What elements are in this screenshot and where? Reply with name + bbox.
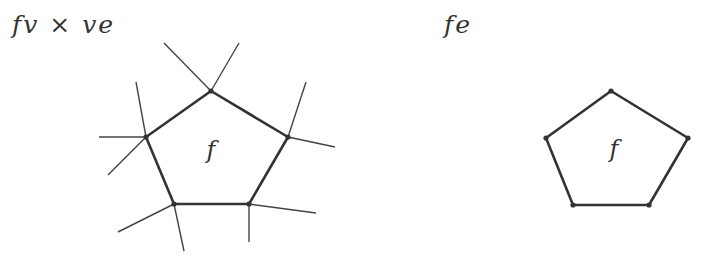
diagram-canvas: f f — [0, 0, 703, 256]
incident-edge — [174, 204, 184, 251]
left-pentagon-face — [146, 91, 288, 204]
incident-edge — [288, 82, 306, 137]
left-face-label: f — [205, 136, 220, 164]
incident-edge — [249, 204, 316, 213]
right-face-label: f — [608, 135, 623, 163]
incident-edge — [108, 137, 146, 175]
vertex-dot — [646, 202, 651, 207]
vertex-dot — [570, 202, 575, 207]
incident-edge — [288, 137, 335, 147]
vertex-dot — [171, 201, 176, 206]
vertex-dot — [685, 135, 690, 140]
vertex-dot — [608, 88, 613, 93]
incident-edge — [164, 43, 211, 91]
incident-edge — [118, 204, 174, 232]
incident-edge — [136, 82, 146, 137]
vertex-dot — [143, 134, 148, 139]
vertex-dot — [246, 201, 251, 206]
incident-edge — [211, 43, 239, 91]
left-vertices — [143, 88, 290, 206]
vertex-dot — [285, 134, 290, 139]
vertex-dot — [543, 135, 548, 140]
left-incident-edges — [99, 43, 335, 251]
vertex-dot — [208, 88, 213, 93]
